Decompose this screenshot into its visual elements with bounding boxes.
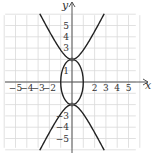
x-axis-label: x — [145, 79, 152, 92]
x-tick-label: −2 — [43, 83, 56, 93]
x-tick-label: 2 — [92, 83, 98, 93]
x-tick-label: 5 — [126, 83, 132, 93]
y-tick-label: 3 — [63, 43, 69, 53]
y-tick-label: −4 — [56, 122, 70, 132]
y-tick-label: −5 — [56, 134, 70, 144]
graph-plot: −5−4−3−223455431−3−4−5 x y — [0, 0, 153, 164]
x-tick-label: 3 — [103, 83, 109, 93]
y-axis-label: y — [61, 0, 69, 12]
x-tick-label: 4 — [114, 83, 120, 93]
y-tick-label: 1 — [63, 66, 69, 76]
y-tick-label: 4 — [63, 32, 69, 42]
intersection-point — [70, 103, 74, 107]
y-tick-label: 5 — [63, 21, 69, 31]
y-tick-label: −3 — [56, 111, 70, 121]
intersection-point — [70, 57, 74, 61]
